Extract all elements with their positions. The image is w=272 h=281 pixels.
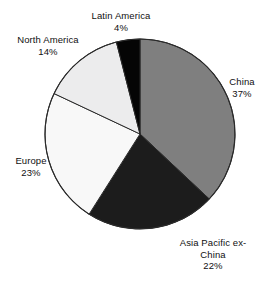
- slice-label-north-america: North America 14%: [2, 34, 94, 57]
- pie-slices-group: [45, 39, 235, 229]
- slice-label-china: China 37%: [216, 76, 268, 99]
- slice-label-europe: Europe 23%: [2, 155, 60, 178]
- slice-label-europe-value: 23%: [2, 167, 60, 179]
- slice-label-europe-name: Europe: [15, 155, 46, 166]
- pie-chart-figure: Latin America 4% North America 14% China…: [0, 0, 272, 281]
- slice-label-asia-pacific-name-line1: Asia Pacific ex-: [180, 237, 247, 248]
- slice-label-latin-america-value: 4%: [78, 22, 164, 34]
- slice-label-asia-pacific: Asia Pacific ex- China 22%: [163, 237, 263, 272]
- slice-label-latin-america: Latin America 4%: [78, 10, 164, 33]
- slice-label-asia-pacific-value: 22%: [163, 260, 263, 272]
- slice-label-north-america-value: 14%: [2, 46, 94, 58]
- slice-label-china-value: 37%: [216, 88, 268, 100]
- slice-label-north-america-name: North America: [17, 34, 79, 45]
- slice-label-china-name: China: [229, 76, 254, 87]
- slice-label-latin-america-name: Latin America: [92, 10, 151, 21]
- slice-label-asia-pacific-name-line2: China: [163, 249, 263, 261]
